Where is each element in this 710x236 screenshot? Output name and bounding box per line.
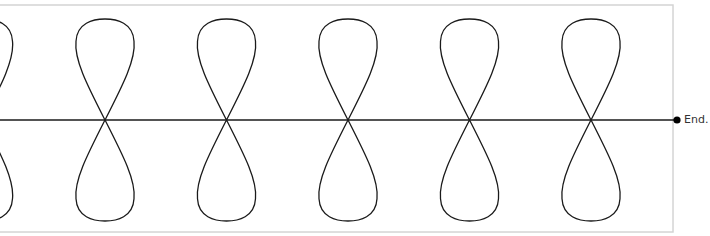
diagram-canvas (0, 0, 710, 236)
frame-border (0, 5, 673, 232)
end-dot (673, 116, 680, 123)
end-label: End. (684, 112, 708, 128)
